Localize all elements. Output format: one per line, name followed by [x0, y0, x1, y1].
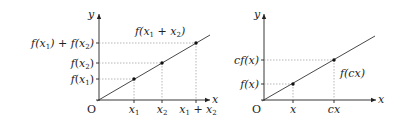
curve-label-f-cx: f(cx): [339, 67, 365, 80]
y-axis-label: y: [87, 8, 95, 21]
x-tick-x: x: [290, 103, 297, 116]
point-x2: [160, 61, 163, 64]
point-cx: [332, 58, 335, 61]
y-tick-fx1: f(x1): [70, 73, 94, 87]
linear-function-line: [97, 35, 210, 101]
y-axis-label: y: [253, 8, 261, 21]
x-tick-x1x2: x1 + x2: [179, 103, 217, 117]
curve-label-f-x1-plus-x2: f(x1 + x2): [134, 25, 185, 39]
point-x1x2: [194, 41, 197, 44]
origin-label: O: [252, 103, 261, 116]
x-tick-x2: x2: [157, 103, 168, 117]
y-tick-sum: f(x1) + f(x2): [30, 37, 94, 51]
x-axis-label: x: [212, 93, 219, 106]
linearity-diagrams: y x O f(x1) f(x2) f(x1) + f(x2) x1 x2 x1…: [0, 0, 403, 123]
x-tick-x1: x1: [129, 103, 140, 117]
x-tick-cx: cx: [328, 103, 341, 116]
y-tick-fx: f(x): [239, 78, 259, 91]
homogeneity-diagram: y x O f(x) cf(x) x cx f(cx): [234, 8, 385, 116]
y-tick-cfx: cf(x): [234, 54, 259, 67]
additivity-diagram: y x O f(x1) f(x2) f(x1) + f(x2) x1 x2 x1…: [30, 8, 219, 117]
y-tick-fx2: f(x2): [70, 57, 94, 71]
point-x: [291, 82, 294, 85]
x-axis-label: x: [378, 93, 385, 106]
origin-label: O: [87, 103, 96, 116]
point-x1: [132, 77, 135, 80]
